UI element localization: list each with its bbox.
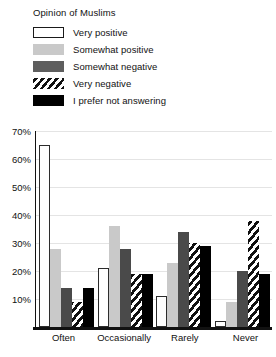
x-axis-line <box>33 327 272 330</box>
bar <box>109 226 120 327</box>
bar <box>156 296 167 327</box>
bar <box>131 274 142 327</box>
bar <box>248 221 259 327</box>
y-axis-tick-label: 50% <box>12 182 31 193</box>
bar <box>189 243 200 327</box>
legend-item-list: Very positiveSomewhat positiveSomewhat n… <box>33 24 243 109</box>
bar <box>98 268 109 327</box>
y-axis-labels: 70%60%50%40%30%20%10% <box>0 126 31 331</box>
bar <box>72 302 83 327</box>
legend-item: Very negative <box>33 75 243 92</box>
bar <box>167 263 178 327</box>
chart-legend: Opinion of Muslims Very positiveSomewhat… <box>33 7 243 109</box>
bar <box>120 249 131 327</box>
legend-swatch-veryneg-icon <box>33 78 64 89</box>
legend-item-label: Very negative <box>73 78 131 89</box>
y-axis-tick-label: 60% <box>12 154 31 165</box>
legend-item: Somewhat positive <box>33 41 243 58</box>
bar-group-never <box>215 221 270 327</box>
bar-group-occasionally <box>98 226 153 327</box>
y-axis-tick-label: 20% <box>12 266 31 277</box>
x-axis-tick-label: Never <box>217 332 274 343</box>
plot-area <box>35 131 272 327</box>
legend-swatch-nopref-icon <box>33 95 64 106</box>
legend-item-label: Somewhat positive <box>73 44 154 55</box>
bar <box>226 302 237 327</box>
bar <box>142 274 153 327</box>
bar <box>259 274 270 327</box>
bar <box>83 288 94 327</box>
x-axis-tick-label: Occasionally <box>96 332 153 343</box>
bar <box>237 271 248 327</box>
legend-item: Very positive <box>33 24 243 41</box>
bar-groups <box>36 131 272 327</box>
bar-group-rarely <box>156 232 211 327</box>
bar <box>61 288 72 327</box>
y-axis-tick-label: 70% <box>12 126 31 137</box>
legend-title: Opinion of Muslims <box>33 7 243 18</box>
x-axis-tick-label: Rarely <box>156 332 213 343</box>
x-axis-tick-label: Often <box>35 332 92 343</box>
legend-swatch-someneg-icon <box>33 61 64 72</box>
legend-item-label: I prefer not answering <box>73 95 166 106</box>
y-axis-tick-label: 30% <box>12 238 31 249</box>
y-axis-tick-label: 10% <box>12 294 31 305</box>
legend-item: Somewhat negative <box>33 58 243 75</box>
legend-swatch-verypos-icon <box>33 27 64 38</box>
bar <box>50 249 61 327</box>
bar-chart: 70%60%50%40%30%20%10% OftenOccasionallyR… <box>0 126 276 357</box>
bar <box>178 232 189 327</box>
y-axis-tick-label: 40% <box>12 210 31 221</box>
bar <box>39 145 50 327</box>
legend-item-label: Very positive <box>73 27 128 38</box>
bar <box>200 246 211 327</box>
legend-item: I prefer not answering <box>33 92 243 109</box>
x-axis-labels: OftenOccasionallyRarelyNever <box>35 332 274 343</box>
bar-group-often <box>39 145 94 327</box>
legend-item-label: Somewhat negative <box>73 61 157 72</box>
legend-swatch-somepos-icon <box>33 44 64 55</box>
